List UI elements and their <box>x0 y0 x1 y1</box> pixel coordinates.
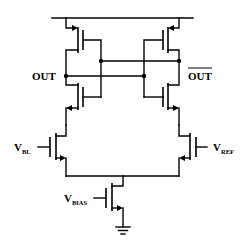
pmos-left-transistor <box>66 18 101 97</box>
nmos-input-left-transistor <box>38 125 66 176</box>
vbl-label: V BL <box>14 141 31 155</box>
junction-dot <box>142 74 146 78</box>
junction-dot <box>177 59 181 63</box>
vref-main-text: V <box>213 141 221 153</box>
nmos-right-latch-transistor <box>144 83 179 125</box>
out-label: OUT <box>32 70 57 82</box>
nmos-left-latch-transistor <box>66 83 101 125</box>
vbias-sub-text: BIAS <box>72 199 88 206</box>
vref-label: V REF <box>213 141 234 155</box>
out-bar-label: OUT <box>188 70 213 82</box>
sense-amplifier-schematic: OUT OUT V BL V REF V BIAS <box>0 0 246 248</box>
pmos-right-transistor <box>144 18 179 97</box>
vbias-main-text: V <box>64 192 72 204</box>
junction-dot-out <box>64 74 68 78</box>
vbl-sub-text: BL <box>22 148 31 155</box>
out-bar-label-group: OUT <box>188 68 213 82</box>
vbias-label: V BIAS <box>64 192 88 206</box>
nmos-input-right-transistor <box>179 125 207 176</box>
vbl-main-text: V <box>14 141 22 153</box>
junction-dot <box>99 59 103 63</box>
vref-sub-text: REF <box>221 148 234 155</box>
nmos-tail-transistor <box>94 176 123 227</box>
ground-icon <box>116 227 130 234</box>
